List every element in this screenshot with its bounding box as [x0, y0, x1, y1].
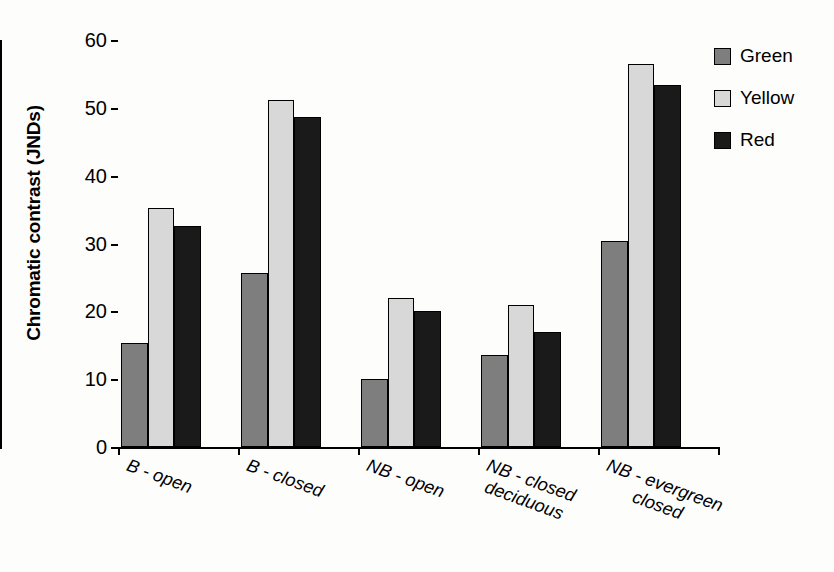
y-tick-label: 60 — [85, 29, 107, 52]
legend-swatch-icon — [714, 132, 731, 149]
legend-swatch-icon — [714, 48, 731, 65]
x-tick-label: NB - closeddeciduous — [476, 455, 578, 527]
legend-label: Red — [740, 129, 775, 151]
y-tick-mark — [111, 40, 118, 42]
x-tick-label-line: B - closed — [244, 455, 326, 502]
legend-item: Red — [714, 130, 832, 150]
y-tick-label: 30 — [85, 232, 107, 255]
y-tick-mark — [111, 176, 118, 178]
y-tick-mark — [111, 379, 118, 381]
bar — [414, 311, 441, 447]
x-tick-mark — [118, 447, 120, 455]
x-tick-label: B - closed — [244, 455, 326, 502]
y-tick-label: 20 — [85, 300, 107, 323]
y-tick-mark — [111, 108, 118, 110]
legend-item: Green — [714, 46, 832, 66]
bar — [534, 332, 561, 447]
bar — [388, 298, 415, 447]
y-tick-label: 40 — [85, 164, 107, 187]
x-tick-label: B - open — [124, 455, 195, 498]
y-tick-label: 10 — [85, 368, 107, 391]
legend-label: Yellow — [740, 87, 794, 109]
y-tick-mark — [111, 311, 118, 313]
bar — [628, 64, 655, 447]
bar — [268, 100, 295, 447]
chart-legend: GreenYellowRed — [714, 46, 832, 172]
x-tick-label: NB - evergreenclosed — [596, 455, 725, 537]
y-tick-label: 0 — [96, 436, 107, 459]
legend-item: Yellow — [714, 88, 832, 108]
x-tick-mark — [718, 447, 720, 455]
x-tick-label-line: NB - open — [364, 455, 447, 503]
bar — [508, 305, 535, 447]
y-tick-mark — [111, 244, 118, 246]
legend-label: Green — [740, 45, 793, 67]
y-axis-line — [0, 40, 2, 449]
legend-swatch-icon — [714, 90, 731, 107]
bar — [148, 208, 175, 447]
x-tick-mark — [478, 447, 480, 455]
x-tick-label-line: B - open — [124, 455, 195, 498]
x-tick-mark — [598, 447, 600, 455]
y-tick-label: 50 — [85, 96, 107, 119]
x-tick-mark — [238, 447, 240, 455]
bar — [294, 117, 321, 447]
x-axis-line — [118, 447, 720, 449]
plot-area: 0102030405060 — [118, 40, 718, 447]
x-tick-label: NB - open — [364, 455, 447, 503]
y-axis-title: Chromatic contrast (JNDs) — [23, 13, 45, 433]
bar — [361, 379, 388, 447]
bar — [654, 85, 681, 447]
bar — [481, 355, 508, 447]
bar — [601, 241, 628, 447]
bar — [241, 273, 268, 447]
x-tick-mark — [358, 447, 360, 455]
bar — [121, 343, 148, 447]
y-tick-mark — [111, 447, 118, 449]
bar — [174, 226, 201, 447]
chart-figure: Chromatic contrast (JNDs) 0102030405060 … — [0, 0, 834, 572]
